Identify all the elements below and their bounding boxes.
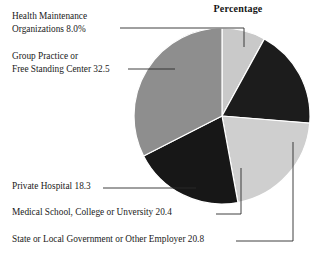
callout-label-hmo-line1: Health Maintenance bbox=[12, 10, 87, 23]
callout-label-group-line1: Group Practice or bbox=[12, 50, 110, 63]
callout-label-health-maintenance-organizations: Health Maintenance Organizations 8.0% bbox=[12, 10, 87, 35]
callout-label-medical-school: Medical School, College or Unversity 20.… bbox=[12, 206, 172, 219]
pie-chart-graphic bbox=[0, 0, 328, 266]
callout-label-group-line2: Free Standing Center 32.5 bbox=[12, 63, 110, 76]
callout-label-private-hospital: Private Hospital 18.3 bbox=[12, 180, 91, 193]
pie-slices bbox=[134, 28, 310, 204]
callout-label-group-practice: Group Practice or Free Standing Center 3… bbox=[12, 50, 110, 75]
pie-chart-figure: Percentage Health Maintenance Organizati… bbox=[0, 0, 328, 266]
callout-label-state-or-local-government: State or Local Government or Other Emplo… bbox=[12, 233, 204, 246]
callout-label-hmo-line2: Organizations 8.0% bbox=[12, 23, 87, 36]
